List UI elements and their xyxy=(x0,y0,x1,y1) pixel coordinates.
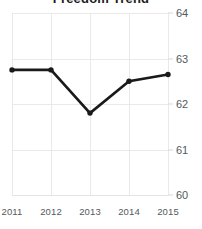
x-tick-label-2012: 2012 xyxy=(40,206,62,217)
x-tick-label-2015: 2015 xyxy=(157,206,179,217)
x-tick-label-2014: 2014 xyxy=(118,206,140,217)
gridline-x-2011 xyxy=(12,13,13,195)
plot-area xyxy=(12,13,168,195)
y-tick-mark-61 xyxy=(168,149,173,150)
y-tick-mark-63 xyxy=(168,58,173,59)
chart-title: Freedom Trend xyxy=(0,0,202,6)
gridline-x-2014 xyxy=(129,13,130,195)
y-tick-label-60: 60 xyxy=(176,189,200,201)
gridline-x-2013 xyxy=(90,13,91,195)
y-tick-label-64: 64 xyxy=(176,7,200,19)
y-tick-label-63: 63 xyxy=(176,53,200,65)
y-tick-label-62: 62 xyxy=(176,98,200,110)
gridline-y-60 xyxy=(12,195,168,196)
gridline-x-2012 xyxy=(51,13,52,195)
y-tick-mark-62 xyxy=(168,104,173,105)
y-tick-label-61: 61 xyxy=(176,144,200,156)
y-tick-mark-60 xyxy=(168,195,173,196)
y-tick-mark-64 xyxy=(168,13,173,14)
x-tick-label-2011: 2011 xyxy=(2,206,23,217)
x-tick-label-2013: 2013 xyxy=(79,206,101,217)
line-chart: Freedom Trend 6463626160 201120122013201… xyxy=(0,0,202,229)
